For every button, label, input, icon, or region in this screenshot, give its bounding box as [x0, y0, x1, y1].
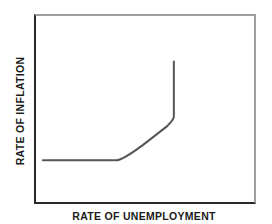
chart: RATE OF INFLATION RATE OF UNEMPLOYMENT: [0, 0, 272, 224]
x-axis-label: RATE OF UNEMPLOYMENT: [72, 210, 215, 222]
curve-plot: [0, 0, 272, 224]
data-curve: [43, 62, 174, 161]
y-axis-label: RATE OF INFLATION: [14, 57, 26, 166]
